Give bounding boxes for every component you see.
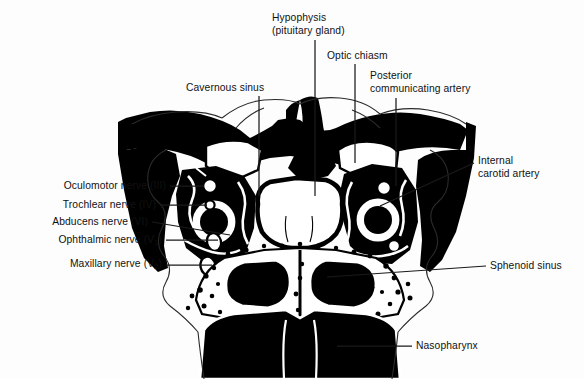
label-hypophysis: Hypophysis (pituitary gland) [272,12,345,37]
sphenoid-sinus-right [310,260,376,308]
label-posterior-communicating-artery-line1: Posterior [370,70,470,83]
oculomotor-nerve-section [203,179,217,193]
label-maxillary-nerve-close: ) [158,258,162,269]
label-internal-carotid-artery: Internal carotid artery [478,155,540,180]
label-optic-chiasm: Optic chiasm [327,50,388,63]
label-maxillary-nerve: Maxillary nerve (V2) [42,258,162,271]
label-ophthalmic-nerve-subscript: 1 [154,238,158,247]
label-ophthalmic-nerve-text: Ophthalmic nerve (V [58,234,154,245]
label-posterior-communicating-artery: Posterior communicating artery [370,70,470,95]
sphenoid-sinus-left [226,260,290,308]
label-hypophysis-line2: (pituitary gland) [272,25,345,38]
label-sphenoid-sinus: Sphenoid sinus [490,260,562,273]
nasopharynx-airway [200,310,400,379]
label-posterior-communicating-artery-line2: communicating artery [370,83,470,96]
label-trochlear-nerve: Trochlear nerve (IV) [36,199,156,212]
label-internal-carotid-artery-line2: carotid artery [478,168,540,181]
hypophysis-fossa [258,178,343,248]
label-oculomotor-nerve: Oculomotor nerve (III) [36,180,166,193]
label-maxillary-nerve-text: Maxillary nerve (V [70,258,154,269]
label-nasopharynx: Nasopharynx [416,340,478,353]
label-maxillary-nerve-subscript: 2 [154,262,158,271]
label-abducens-nerve: Abducens nerve (VI) [20,216,148,229]
posterior-communicating-artery-section [377,181,391,195]
label-ophthalmic-nerve: Ophthalmic nerve (V1) [32,234,162,247]
label-hypophysis-line1: Hypophysis [272,12,345,25]
label-ophthalmic-nerve-close: ) [158,234,162,245]
label-cavernous-sinus: Cavernous sinus [186,82,264,95]
label-internal-carotid-artery-line1: Internal [478,155,540,168]
